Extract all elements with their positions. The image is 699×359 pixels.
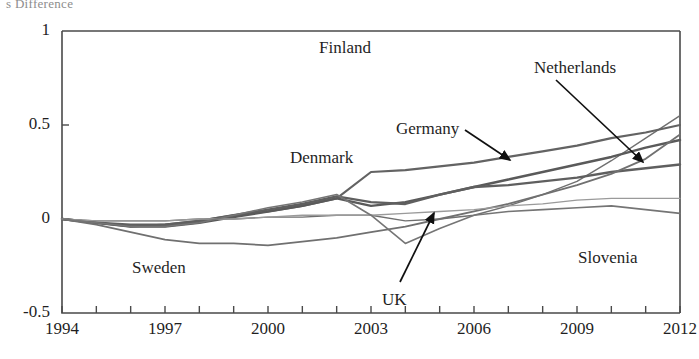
x-tick-label: 1994 xyxy=(32,319,92,339)
annotation-label-denmark: Denmark xyxy=(290,148,353,168)
annotation-label-slovenia: Slovenia xyxy=(578,248,638,268)
series-line-sweden xyxy=(62,134,680,245)
annotation-label-netherlands: Netherlands xyxy=(534,58,616,78)
annotation-label-uk: UK xyxy=(382,290,407,310)
y-tick-label: 0.5 xyxy=(0,114,50,134)
x-tick-label: 2009 xyxy=(547,319,607,339)
arrow-netherlands xyxy=(556,80,643,162)
x-tick-label: 2000 xyxy=(238,319,298,339)
x-tick-label: 2006 xyxy=(444,319,504,339)
annotation-label-germany: Germany xyxy=(396,119,459,139)
chart-root: s Difference -0.500.51 19941997200020032… xyxy=(0,0,699,359)
series-line-germany xyxy=(62,140,680,226)
arrow-germany xyxy=(465,130,510,160)
annotation-label-sweden: Sweden xyxy=(132,258,186,278)
x-tick-label: 1997 xyxy=(135,319,195,339)
x-tick-label: 2003 xyxy=(341,319,401,339)
x-tick-label: 2012 xyxy=(650,319,699,339)
y-tick-label: 1 xyxy=(0,20,50,40)
annotation-label-finland: Finland xyxy=(319,38,371,58)
y-tick-label: 0 xyxy=(0,208,50,228)
chart-series-group xyxy=(62,116,680,246)
